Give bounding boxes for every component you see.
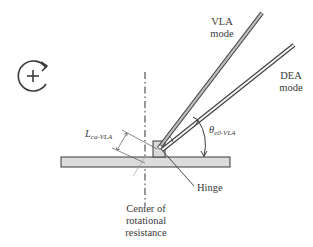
rotation-icon — [18, 61, 47, 91]
hinge-label: Hinge — [197, 182, 223, 194]
vla-mode-label: VLA mode — [207, 16, 237, 40]
center-line2: rotational — [115, 215, 177, 227]
hinge-pin — [158, 145, 162, 149]
center-line1: Center of — [115, 203, 177, 215]
angle-label: θe0-VLA — [209, 124, 236, 139]
angle-subscript: e0-VLA — [214, 129, 235, 137]
vla-mode-line1: VLA — [207, 16, 237, 28]
dea-mode-label: DEA mode — [275, 70, 307, 94]
dea-mode-line2: mode — [275, 82, 307, 94]
length-label: Lca-VLA — [85, 128, 112, 143]
dea-mode-line1: DEA — [275, 70, 307, 82]
base-plate — [61, 157, 230, 167]
length-subscript: ca-VLA — [91, 133, 112, 141]
center-line3: resistance — [115, 227, 177, 239]
vla-mode-line2: mode — [207, 28, 237, 40]
center-label: Center of rotational resistance — [115, 203, 177, 239]
